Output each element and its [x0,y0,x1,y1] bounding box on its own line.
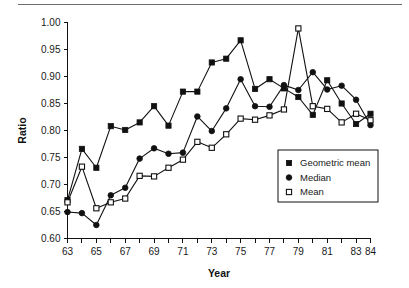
y-axis-tick-label: 0.85 [41,98,61,109]
data-point-median-76 [252,103,258,109]
data-point-geometric-mean-65 [94,165,99,170]
data-point-median-66 [108,193,114,199]
line-chart-plot: 0.600.650.700.750.800.850.900.951.006365… [0,0,409,288]
data-point-median-83 [353,97,359,103]
data-point-geometric-mean-77 [267,77,272,82]
data-point-mean-79 [296,26,301,31]
data-point-mean-63 [65,200,70,205]
x-axis-tick-label: 71 [177,246,189,257]
data-point-median-77 [267,104,273,110]
data-point-geometric-mean-82 [339,101,344,106]
x-axis-tick-label: 65 [91,246,103,257]
data-point-geometric-mean-80 [310,112,315,117]
data-point-mean-82 [339,120,344,125]
data-point-geometric-mean-69 [151,104,156,109]
data-point-mean-83 [353,111,358,116]
x-axis-tick-label: 81 [322,246,334,257]
x-axis-tick-label: 79 [293,246,305,257]
y-axis-tick-label: 0.90 [41,71,61,82]
data-point-median-75 [238,76,244,82]
data-point-geometric-mean-79 [296,94,301,99]
data-point-geometric-mean-64 [79,146,84,151]
data-point-geometric-mean-72 [195,89,200,94]
data-point-mean-67 [123,196,128,201]
data-point-median-79 [296,87,302,93]
y-axis-tick-label: 0.75 [41,152,61,163]
y-axis-tick-label: 0.65 [41,206,61,217]
data-point-geometric-mean-73 [209,60,214,65]
data-point-median-65 [94,222,100,228]
data-point-mean-73 [209,145,214,150]
data-point-mean-69 [151,174,156,179]
legend-filled-square-marker [286,160,291,165]
data-point-geometric-mean-75 [238,38,243,43]
data-point-median-78 [281,82,287,88]
data-point-mean-76 [252,117,257,122]
data-point-mean-80 [310,104,315,109]
data-point-geometric-mean-76 [252,86,257,91]
data-point-median-71 [180,150,186,156]
data-point-median-67 [122,185,128,191]
data-point-mean-68 [137,173,142,178]
y-axis-tick-label: 0.95 [41,44,61,55]
data-point-geometric-mean-66 [108,124,113,129]
x-axis-title: Year [208,267,230,279]
y-axis-tick-label: 1.00 [41,17,61,28]
data-point-median-64 [79,210,85,216]
data-point-mean-77 [267,113,272,118]
data-point-median-82 [339,83,345,89]
y-axis-title: Ratio [16,117,28,143]
x-axis-tick-label: 67 [120,246,132,257]
legend-open-square-marker [286,189,291,194]
data-point-mean-71 [180,157,185,162]
x-axis-tick-label: 63 [62,246,74,257]
data-point-median-74 [223,106,229,112]
data-point-geometric-mean-84 [368,111,373,116]
x-axis-tick-label: 77 [264,246,276,257]
data-point-mean-75 [238,116,243,121]
data-point-median-72 [195,114,201,120]
data-point-mean-70 [166,165,171,170]
data-point-mean-74 [224,132,229,137]
data-point-median-69 [151,146,157,152]
y-axis-tick-label: 0.70 [41,179,61,190]
axes-lines [68,23,371,239]
x-axis-tick-label: 75 [235,246,247,257]
data-point-mean-72 [195,139,200,144]
y-axis-tick-label: 0.80 [41,125,61,136]
data-point-median-63 [65,209,71,215]
chart-figure: 0.600.650.700.750.800.850.900.951.006365… [0,0,409,288]
data-point-geometric-mean-71 [180,89,185,94]
data-point-median-68 [137,156,143,162]
data-point-mean-65 [94,206,99,211]
data-point-mean-66 [108,200,113,205]
y-axis-tick-label: 0.60 [41,233,61,244]
legend-item-label: Mean [300,186,324,197]
data-point-geometric-mean-81 [325,78,330,83]
data-point-geometric-mean-70 [166,123,171,128]
data-point-geometric-mean-74 [224,56,229,61]
data-point-geometric-mean-68 [137,120,142,125]
data-point-mean-64 [79,164,84,169]
legend-item-label: Geometric mean [300,157,370,168]
data-point-median-73 [209,128,215,134]
data-point-mean-78 [281,107,286,112]
data-point-mean-84 [368,118,373,123]
data-point-mean-81 [325,106,330,111]
data-point-median-81 [324,87,330,93]
x-axis-tick-label: 69 [149,246,161,257]
x-axis-tick-label: 84 [365,246,377,257]
x-axis-tick-label: 83 [351,246,363,257]
legend-filled-circle-marker [286,175,292,181]
data-point-median-70 [166,151,172,157]
legend-item-label: Median [300,172,331,183]
data-point-geometric-mean-83 [353,121,358,126]
data-point-median-80 [310,69,316,75]
x-axis-tick-label: 73 [206,246,218,257]
data-point-geometric-mean-67 [123,127,128,132]
